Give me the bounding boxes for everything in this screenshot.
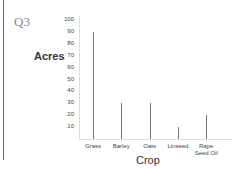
x-tick-label: Oats bbox=[136, 143, 164, 150]
y-tick-label: 30 bbox=[58, 99, 74, 105]
y-tick-label: 90 bbox=[58, 28, 74, 34]
y-tick-label: 10 bbox=[58, 123, 74, 129]
y-tick-label: 80 bbox=[58, 40, 74, 46]
x-tick-label: Linseed bbox=[164, 143, 192, 150]
x-tick-label: Barley bbox=[107, 143, 135, 150]
x-tick-label: Grass bbox=[79, 143, 107, 150]
y-tick-label: 60 bbox=[58, 64, 74, 70]
y-tick-label: 20 bbox=[58, 111, 74, 117]
x-axis-label: Crop bbox=[136, 154, 160, 166]
page-margin-rule bbox=[3, 0, 4, 160]
x-axis-line bbox=[79, 139, 232, 140]
bar bbox=[150, 103, 151, 139]
question-label: Q3 bbox=[14, 14, 30, 30]
bar bbox=[93, 32, 94, 139]
y-tick-label: 50 bbox=[58, 76, 74, 82]
y-axis-line bbox=[79, 16, 80, 139]
y-tick-label: 70 bbox=[58, 52, 74, 58]
x-tick-label: Rape Seed Oil bbox=[192, 143, 220, 157]
bar bbox=[206, 115, 207, 139]
y-tick-label: 40 bbox=[58, 87, 74, 93]
y-tick-label: 100 bbox=[58, 16, 74, 22]
bar bbox=[178, 127, 179, 139]
bar bbox=[121, 103, 122, 139]
